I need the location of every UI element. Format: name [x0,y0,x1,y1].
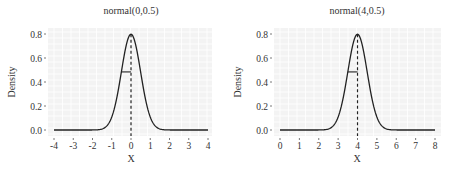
y-tick-label: 0.8 [256,30,268,40]
y-tick-label: 0.0 [256,126,268,136]
x-tick-label: -4 [50,141,58,151]
y-tick-label: 0.2 [30,102,42,112]
x-tick-label: 0 [129,141,134,151]
chart-title: normal(0,0.5) [104,5,159,17]
x-tick-label: 3 [336,141,341,151]
panel-normal-4: normal(4,0.5)DensityX0.00.20.40.60.80123… [232,5,441,164]
x-axis-label: X [353,153,361,164]
x-tick-label: 3 [186,141,191,151]
x-tick-label: 8 [433,141,438,151]
y-tick-label: 0.6 [30,54,42,64]
x-axis-label: X [127,153,135,164]
x-tick-label: 1 [148,141,153,151]
x-tick-label: 5 [375,141,380,151]
x-tick-label: -3 [69,141,77,151]
x-tick-label: 2 [167,141,172,151]
y-tick-label: 0.2 [256,102,268,112]
x-tick-label: -1 [108,141,116,151]
y-axis-label: Density [232,66,243,97]
y-tick-label: 0.4 [256,78,268,88]
x-tick-label: 7 [413,141,418,151]
y-tick-label: 0.6 [256,54,268,64]
x-tick-label: 0 [278,141,283,151]
x-tick-label: 6 [394,141,399,151]
x-tick-label: 4 [206,141,211,151]
y-tick-label: 0.0 [30,126,42,136]
chart-canvas: normal(0,0.5)DensityX0.00.20.40.60.8-4-3… [0,0,453,171]
chart-title: normal(4,0.5) [330,5,385,17]
x-tick-label: 2 [316,141,321,151]
y-tick-label: 0.8 [30,30,42,40]
x-tick-label: 4 [355,141,360,151]
figure: normal(0,0.5)DensityX0.00.20.40.60.8-4-3… [0,0,453,171]
x-tick-label: 1 [297,141,302,151]
panel-normal-0: normal(0,0.5)DensityX0.00.20.40.60.8-4-3… [6,5,212,164]
x-tick-label: -2 [89,141,97,151]
y-tick-label: 0.4 [30,78,42,88]
y-axis-label: Density [6,66,17,97]
